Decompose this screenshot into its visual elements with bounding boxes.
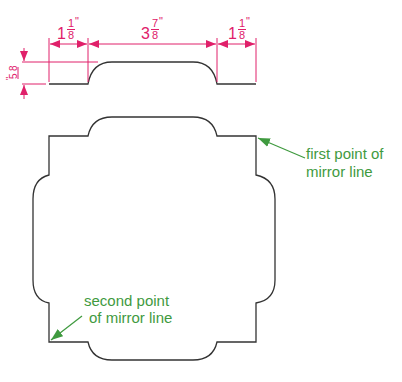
dim-den: 8 [152,29,158,41]
dim-num: 1 [68,17,74,29]
dimension-label-right: 1 1 8 " [228,15,250,42]
profile-outline [49,62,256,84]
annotation-second-point-line2: of mirror line [89,309,172,326]
dim-num: 1 [239,17,245,29]
annotation-first-point-line2: mirror line [306,163,373,180]
annotation-first-point-line1: first point of [306,145,384,162]
dim-whole: 1 [228,25,237,42]
dim-unit: " [75,15,79,27]
leader-first-point [258,138,305,158]
dim-whole: 1 [57,25,66,42]
dimension-label-middle: 3 7 8 " [141,15,163,42]
dim-den: 8 [239,29,245,41]
annotation-second-point-line1: second point [84,292,170,309]
dim-unit: " [159,15,163,27]
dim-unit: " [4,77,14,80]
dimension-label-left: 1 1 8 " [57,15,79,42]
leader-second-point [51,316,82,340]
dim-den: 8 [8,65,19,71]
dimension-label-height: 5 8 " [4,65,19,80]
dim-num: 7 [152,17,158,29]
drawing-canvas: 1 1 8 " 3 7 8 " 1 1 8 " 5 8 " first poin… [0,0,402,382]
dim-whole: 3 [141,25,150,42]
dim-unit: " [246,15,250,27]
dim-den: 8 [68,29,74,41]
